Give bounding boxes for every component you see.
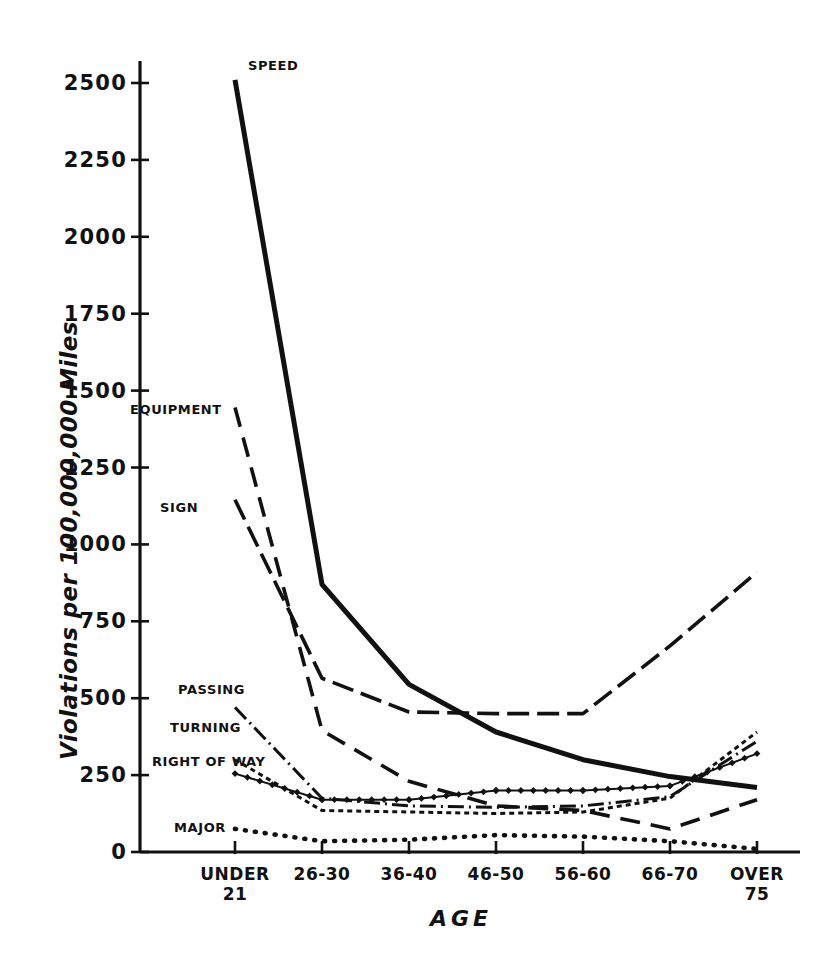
y-tick-label: 2500: [55, 71, 127, 95]
series-line-speed: [235, 80, 757, 788]
y-tick-label: 1250: [55, 456, 127, 480]
chart-figure: Violations per 100,000,000 Miles AGE 025…: [0, 0, 825, 964]
y-tick-label: 2250: [55, 148, 127, 172]
series-line-equipment: [235, 408, 757, 829]
series-label-major: MAJOR: [174, 820, 226, 835]
series-label-speed: SPEED: [248, 58, 298, 73]
y-tick-label: 1000: [55, 532, 127, 556]
series-label-equipment: EQUIPMENT: [130, 402, 222, 417]
series-label-sign: SIGN: [160, 500, 198, 515]
series-line-turning: [235, 732, 757, 814]
plot-area: [0, 0, 825, 964]
y-tick-label: 2000: [55, 225, 127, 249]
x-tick-label: OVER75: [697, 864, 817, 904]
y-tick-label: 1750: [55, 302, 127, 326]
y-tick-label: 1500: [55, 379, 127, 403]
series-label-passing: PASSING: [178, 682, 245, 697]
series-label-right-of-way: RIGHT OF WAY: [152, 754, 265, 769]
y-tick-label: 0: [55, 840, 127, 864]
series-label-turning: TURNING: [170, 720, 241, 735]
y-tick-label: 500: [55, 686, 127, 710]
y-tick-label: 250: [55, 763, 127, 787]
y-tick-label: 750: [55, 609, 127, 633]
